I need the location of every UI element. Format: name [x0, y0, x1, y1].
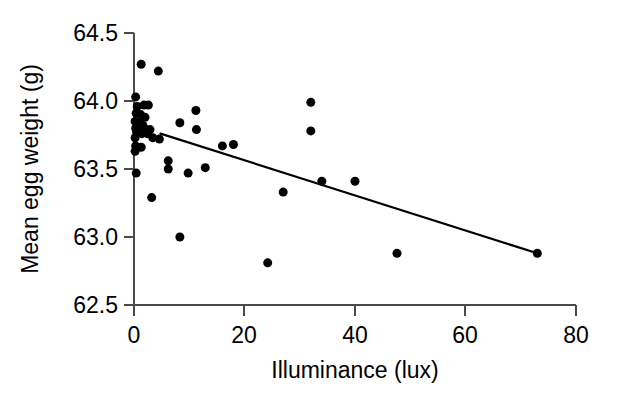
data-point	[392, 249, 401, 258]
x-tick-label: 40	[342, 322, 368, 348]
x-tick-labels: 0 20 40 60 80	[128, 322, 589, 348]
y-axis-title: Mean egg weight (g)	[17, 64, 43, 274]
data-point	[306, 126, 315, 135]
y-tick-label: 63.5	[73, 156, 118, 182]
plot-canvas: 64.5 64.0 63.5 63.0 62.5 0 20 40 60 80 I…	[0, 0, 618, 393]
data-point	[229, 140, 238, 149]
x-tick-label: 80	[563, 322, 589, 348]
data-point	[131, 92, 140, 101]
data-point	[144, 101, 153, 110]
y-tick-label: 62.5	[73, 292, 118, 318]
data-point	[175, 118, 184, 127]
data-point	[164, 156, 173, 165]
y-tick-labels: 64.5 64.0 63.5 63.0 62.5	[73, 20, 118, 318]
data-point	[279, 188, 288, 197]
data-point	[191, 106, 200, 115]
x-axis-title: Illuminance (lux)	[271, 357, 438, 383]
y-tick-label: 64.5	[73, 20, 118, 46]
data-point	[154, 67, 163, 76]
data-point	[131, 147, 140, 156]
data-point	[137, 60, 146, 69]
y-axis-ticks	[124, 33, 134, 305]
data-point	[533, 249, 542, 258]
data-point	[317, 177, 326, 186]
y-tick-label: 64.0	[73, 88, 118, 114]
data-point	[351, 177, 360, 186]
scatter-chart-figure: 64.5 64.0 63.5 63.0 62.5 0 20 40 60 80 I…	[0, 0, 618, 393]
data-point	[175, 233, 184, 242]
data-point	[192, 125, 201, 134]
data-point	[131, 133, 140, 142]
x-tick-label: 20	[231, 322, 257, 348]
data-point	[164, 165, 173, 174]
trend-line	[161, 134, 538, 254]
y-tick-label: 63.0	[73, 224, 118, 250]
data-point	[218, 141, 227, 150]
data-point	[155, 135, 164, 144]
data-point	[132, 169, 141, 178]
data-point	[263, 258, 272, 267]
x-tick-label: 60	[452, 322, 478, 348]
data-point	[306, 98, 315, 107]
x-tick-label: 0	[128, 322, 141, 348]
data-point	[147, 193, 156, 202]
data-point	[184, 169, 193, 178]
x-axis-ticks	[134, 305, 576, 316]
data-point	[201, 163, 210, 172]
